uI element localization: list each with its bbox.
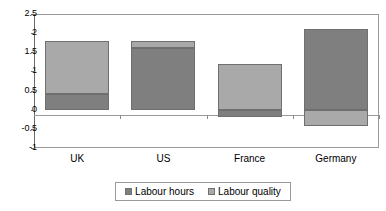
bar-segment	[45, 94, 109, 110]
x-axis-tick-mark	[293, 115, 294, 119]
bar-chart: 2.521.510.50-0.5-1 UKUSFranceGermany Lab…	[0, 0, 386, 211]
bar-segment	[45, 41, 109, 94]
x-axis-tick-mark	[379, 115, 380, 119]
legend-swatch-labour-hours	[125, 188, 132, 195]
chart-legend: Labour hours Labour quality	[115, 182, 291, 201]
x-axis-tick-mark	[120, 115, 121, 119]
x-axis-tick-mark	[207, 115, 208, 119]
x-axis-category-label: UK	[37, 153, 117, 164]
legend-label-labour-hours: Labour hours	[135, 186, 194, 197]
legend-swatch-labour-quality	[208, 188, 215, 195]
bar-segment	[304, 110, 368, 126]
bar-segment	[131, 48, 195, 109]
bar-segment	[304, 29, 368, 109]
legend-item-labour-quality: Labour quality	[208, 186, 281, 197]
bar-segment	[131, 41, 195, 49]
x-axis-category-label: Germany	[296, 153, 376, 164]
bar-segment	[218, 64, 282, 110]
x-axis-category-label: France	[210, 153, 290, 164]
bar-series-layer	[0, 0, 386, 211]
legend-label-labour-quality: Labour quality	[218, 186, 281, 197]
legend-item-labour-hours: Labour hours	[125, 186, 194, 197]
bar-segment	[218, 110, 282, 118]
x-axis-category-label: US	[123, 153, 203, 164]
